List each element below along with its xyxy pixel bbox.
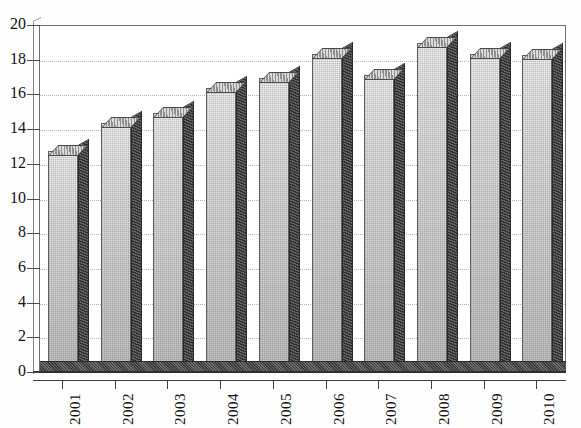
y-tick-label-16: 16 (0, 85, 26, 101)
clipped-header-text (330, 0, 575, 5)
y-tick-label-10: 10 (0, 190, 26, 206)
x-tick-2007 (378, 380, 379, 389)
y-tick-0 (27, 372, 40, 373)
bar-side-face (500, 41, 511, 373)
y-tick-label-12: 12 (0, 155, 26, 171)
y-tick-14 (27, 129, 40, 130)
bar-side-face (447, 31, 458, 373)
x-tick-label-2010: 2010 (542, 393, 557, 425)
x-tick-2002 (115, 380, 116, 389)
y-tick-12 (27, 164, 40, 165)
x-tick-label-2002: 2002 (121, 393, 136, 425)
y-tick-2 (27, 337, 40, 338)
x-axis-line (33, 380, 566, 381)
bar-front-face (522, 55, 552, 373)
x-tick-2010 (536, 380, 537, 389)
bar-front-face (364, 75, 394, 373)
bar-side-face (394, 62, 405, 373)
x-tick-label-2003: 2003 (173, 393, 188, 425)
bar-2007 (364, 69, 394, 373)
bar-side-face (183, 100, 194, 373)
y-tick-label-20: 20 (0, 16, 26, 32)
bar-chart: 02468101214161820 2001200220032004200520… (0, 0, 581, 428)
y-tick-label-8: 8 (0, 224, 26, 240)
plot-area (39, 25, 566, 372)
bar-side-face (552, 43, 563, 373)
y-tick-label-18: 18 (0, 51, 26, 67)
bar-2005 (259, 72, 289, 373)
bar-2009 (470, 48, 500, 373)
y-tick-18 (27, 60, 40, 61)
x-tick-label-2008: 2008 (437, 393, 452, 425)
bar-front-face (312, 54, 342, 373)
y-tick-label-14: 14 (0, 120, 26, 136)
bar-2008 (417, 37, 447, 373)
x-tick-2004 (220, 380, 221, 389)
bar-front-face (101, 123, 131, 373)
bar-front-face (153, 113, 183, 373)
bar-front-face (417, 43, 447, 373)
y-tick-label-0: 0 (0, 363, 26, 379)
y-tick-10 (27, 199, 40, 200)
bar-front-face (48, 151, 78, 373)
bar-front-face (259, 78, 289, 373)
x-tick-2001 (62, 380, 63, 389)
x-tick-label-2004: 2004 (226, 393, 241, 425)
bar-2002 (101, 117, 131, 373)
x-tick-2005 (273, 380, 274, 389)
y-tick-8 (27, 233, 40, 234)
y-tick-4 (27, 303, 40, 304)
bar-side-face (78, 139, 89, 373)
bar-side-face (289, 66, 300, 373)
x-tick-label-2007: 2007 (384, 393, 399, 425)
bar-2003 (153, 107, 183, 373)
x-tick-label-2006: 2006 (332, 393, 347, 425)
x-tick-label-2001: 2001 (68, 393, 83, 425)
y-tick-6 (27, 268, 40, 269)
x-tick-2003 (167, 380, 168, 389)
x-tick-label-2005: 2005 (279, 393, 294, 425)
bar-2010 (522, 49, 552, 373)
bar-side-face (131, 111, 142, 373)
y-tick-16 (27, 94, 40, 95)
bar-side-face (342, 41, 353, 373)
bar-2001 (48, 145, 78, 373)
chart-floor-front-edge (33, 371, 566, 373)
x-tick-label-2009: 2009 (490, 393, 505, 425)
x-tick-2008 (431, 380, 432, 389)
y-tick-label-4: 4 (0, 294, 26, 310)
bar-side-face (236, 76, 247, 373)
x-tick-2009 (484, 380, 485, 389)
bar-2006 (312, 48, 342, 373)
x-tick-2006 (326, 380, 327, 389)
bar-front-face (206, 88, 236, 373)
y-tick-label-6: 6 (0, 259, 26, 275)
bar-2004 (206, 82, 236, 373)
y-tick-label-2: 2 (0, 328, 26, 344)
y-tick-20 (27, 25, 40, 26)
bar-front-face (470, 54, 500, 373)
